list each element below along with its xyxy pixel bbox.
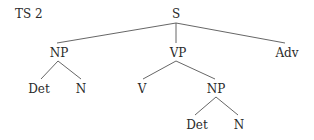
diagram-title: TS 2 [15, 8, 43, 20]
node-v: V [138, 83, 147, 95]
edge-np2-n [216, 97, 238, 115]
edge-np2-det [195, 97, 216, 115]
node-det-subject: Det [28, 83, 50, 95]
node-np-object: NP [207, 83, 226, 95]
syntax-tree-diagram: TS 2 S NP VP Adv Det N V NP Det N [0, 0, 314, 140]
node-n-subject: N [76, 83, 87, 95]
edge-np-n [58, 61, 81, 79]
node-np-subject: NP [50, 47, 69, 59]
edge-s-adv [176, 23, 285, 43]
node-s: S [172, 8, 180, 20]
edge-np-det [41, 61, 58, 79]
edge-vp-v [143, 61, 176, 79]
tree-edges [0, 0, 314, 140]
node-adv: Adv [275, 47, 298, 59]
node-det-object: Det [186, 119, 208, 131]
edge-vp-np [176, 61, 215, 79]
node-n-object: N [234, 119, 245, 131]
node-vp: VP [170, 47, 187, 59]
edge-s-np [57, 23, 176, 43]
